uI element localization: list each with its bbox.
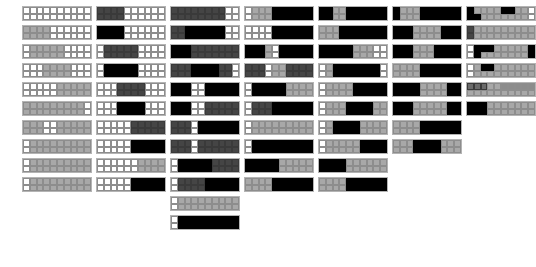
block-2-1[interactable] [96, 6, 166, 21]
block-4-9[interactable] [244, 158, 314, 173]
block-7-2[interactable] [466, 25, 536, 40]
block-5-2[interactable] [318, 25, 388, 40]
pattern-cell [413, 109, 420, 116]
pattern-cell [245, 90, 252, 97]
block-7-3[interactable] [466, 44, 536, 59]
block-5-8[interactable] [318, 139, 388, 154]
block-5-6[interactable] [318, 101, 388, 116]
pattern-cell [77, 147, 84, 154]
pattern-cell [57, 90, 64, 97]
pattern-cell [393, 71, 400, 78]
block-4-8[interactable] [244, 139, 314, 154]
block-3-1[interactable] [170, 6, 240, 21]
pattern-cell [131, 33, 138, 40]
block-2-8[interactable] [96, 139, 166, 154]
block-3-4[interactable] [170, 63, 240, 78]
pattern-cell [299, 71, 306, 78]
block-3-11[interactable] [170, 196, 240, 211]
pattern-cell [104, 14, 111, 21]
block-5-1[interactable] [318, 6, 388, 21]
block-2-4[interactable] [96, 63, 166, 78]
block-3-5[interactable] [170, 82, 240, 97]
pattern-cell [339, 185, 346, 192]
block-3-2[interactable] [170, 25, 240, 40]
pattern-cell [528, 90, 535, 97]
pattern-cell [353, 33, 360, 40]
block-3-6[interactable] [170, 101, 240, 116]
block-5-3[interactable] [318, 44, 388, 59]
block-2-5[interactable] [96, 82, 166, 97]
pattern-cell [333, 128, 340, 135]
block-3-9[interactable] [170, 158, 240, 173]
pattern-cell [413, 33, 420, 40]
pattern-cell [515, 90, 522, 97]
block-6-1[interactable] [392, 6, 462, 21]
block-7-1[interactable] [466, 6, 536, 21]
block-2-2[interactable] [96, 25, 166, 40]
pattern-cell [508, 109, 515, 116]
pattern-cell [178, 147, 185, 154]
block-3-8[interactable] [170, 139, 240, 154]
block-2-10[interactable] [96, 177, 166, 192]
block-7-4[interactable] [466, 63, 536, 78]
pattern-cell [185, 90, 192, 97]
block-4-10[interactable] [244, 177, 314, 192]
pattern-cell [145, 109, 152, 116]
block-6-3[interactable] [392, 44, 462, 59]
block-3-7[interactable] [170, 120, 240, 135]
block-6-8[interactable] [392, 139, 462, 154]
pattern-cell [360, 109, 367, 116]
pattern-cell [138, 33, 145, 40]
block-5-9[interactable] [318, 158, 388, 173]
pattern-cell [487, 33, 494, 40]
block-1-10[interactable] [22, 177, 92, 192]
block-4-7[interactable] [244, 120, 314, 135]
block-3-10[interactable] [170, 177, 240, 192]
pattern-cell [293, 185, 300, 192]
block-1-7[interactable] [22, 120, 92, 135]
pattern-cell [447, 33, 454, 40]
block-4-2[interactable] [244, 25, 314, 40]
block-6-5[interactable] [392, 82, 462, 97]
block-5-10[interactable] [318, 177, 388, 192]
block-4-1[interactable] [244, 6, 314, 21]
block-4-4[interactable] [244, 63, 314, 78]
pattern-cell [367, 52, 374, 59]
block-2-3[interactable] [96, 44, 166, 59]
pattern-cell [151, 33, 158, 40]
pattern-cell [205, 109, 212, 116]
pattern-cell [400, 128, 407, 135]
block-4-3[interactable] [244, 44, 314, 59]
block-1-5[interactable] [22, 82, 92, 97]
pattern-cell [454, 33, 461, 40]
block-2-6[interactable] [96, 101, 166, 116]
block-5-5[interactable] [318, 82, 388, 97]
pattern-cell [205, 147, 212, 154]
block-1-1[interactable] [22, 6, 92, 21]
block-6-2[interactable] [392, 25, 462, 40]
pattern-cell [212, 71, 219, 78]
block-1-9[interactable] [22, 158, 92, 173]
block-1-3[interactable] [22, 44, 92, 59]
block-1-6[interactable] [22, 101, 92, 116]
pattern-cell [158, 52, 165, 59]
block-1-2[interactable] [22, 25, 92, 40]
block-1-8[interactable] [22, 139, 92, 154]
block-2-7[interactable] [96, 120, 166, 135]
block-6-6[interactable] [392, 101, 462, 116]
pattern-cell [487, 71, 494, 78]
block-4-6[interactable] [244, 101, 314, 116]
block-7-5[interactable] [466, 82, 536, 97]
block-7-6[interactable] [466, 101, 536, 116]
pattern-cell [367, 185, 374, 192]
block-6-7[interactable] [392, 120, 462, 135]
block-6-4[interactable] [392, 63, 462, 78]
block-5-4[interactable] [318, 63, 388, 78]
block-1-4[interactable] [22, 63, 92, 78]
block-3-12[interactable] [170, 215, 240, 230]
block-2-9[interactable] [96, 158, 166, 173]
block-4-5[interactable] [244, 82, 314, 97]
block-5-7[interactable] [318, 120, 388, 135]
pattern-cell [97, 14, 104, 21]
block-3-3[interactable] [170, 44, 240, 59]
